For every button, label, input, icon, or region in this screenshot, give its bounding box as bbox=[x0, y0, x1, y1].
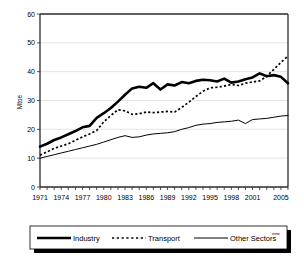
x-tick-label: 1974 bbox=[53, 194, 69, 201]
y-axis-title: Mtoe bbox=[16, 94, 23, 109]
x-tick-label: 1983 bbox=[117, 194, 133, 201]
y-tick-label: 10 bbox=[27, 155, 35, 162]
y-tick-label: 0 bbox=[31, 184, 35, 191]
y-tick-label: 20 bbox=[27, 126, 35, 133]
x-tick-label: 1995 bbox=[202, 194, 218, 201]
chart-figure: 0102030405060 19711974197719801983198619… bbox=[0, 0, 304, 271]
legend-label-other-sectors: Other Sectors bbox=[230, 234, 277, 243]
y-axis-ticks: 0102030405060 bbox=[27, 11, 40, 191]
x-tick-label: 1989 bbox=[160, 194, 176, 201]
x-axis-tick-labels: 1971197419771980198319861989199219951998… bbox=[32, 194, 289, 201]
x-tick-label: 2005 bbox=[273, 194, 289, 201]
gridlines bbox=[40, 43, 288, 158]
x-tick-label: 1977 bbox=[75, 194, 91, 201]
series-line-industry bbox=[40, 73, 288, 146]
y-tick-label: 50 bbox=[27, 39, 35, 46]
x-tick-label: 1992 bbox=[181, 194, 197, 201]
x-tick-label: 2001 bbox=[245, 194, 261, 201]
x-tick-label: 1980 bbox=[96, 194, 112, 201]
legend-label-industry: Industry bbox=[73, 234, 100, 243]
y-tick-label: 30 bbox=[27, 97, 35, 104]
x-tick-label: 1971 bbox=[32, 194, 48, 201]
legend-footnote-marker: **** bbox=[272, 232, 280, 238]
chart-legend: Industry Transport Other Sectors **** bbox=[30, 226, 291, 253]
line-chart: 0102030405060 19711974197719801983198619… bbox=[0, 0, 304, 271]
y-tick-label: 40 bbox=[27, 68, 35, 75]
series-line-other-sectors bbox=[40, 115, 288, 158]
series-line-transport bbox=[40, 56, 288, 155]
x-tick-label: 1998 bbox=[224, 194, 240, 201]
legend-label-transport: Transport bbox=[148, 234, 181, 243]
x-tick-label: 1986 bbox=[138, 194, 154, 201]
y-tick-label: 60 bbox=[27, 11, 35, 18]
